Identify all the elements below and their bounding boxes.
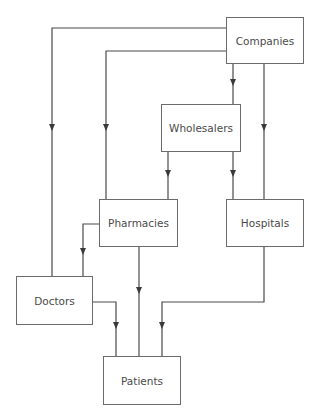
arrow-down-icon	[136, 287, 142, 294]
node-label: Pharmacies	[108, 217, 169, 229]
arrow-down-icon	[261, 124, 267, 131]
edge-pharmacies-doctors	[83, 224, 99, 276]
arrow-down-icon	[230, 79, 236, 86]
node-label: Wholesalers	[169, 122, 233, 134]
arrow-down-icon	[165, 170, 171, 177]
arrow-down-icon	[159, 322, 165, 329]
node-pharmacies: Pharmacies	[99, 199, 178, 247]
node-label: Companies	[236, 35, 295, 47]
node-hospitals: Hospitals	[226, 199, 304, 247]
arrow-down-icon	[230, 170, 236, 177]
node-doctors: Doctors	[16, 276, 93, 325]
arrow-down-icon	[103, 124, 109, 131]
arrow-down-icon	[113, 322, 119, 329]
node-label: Doctors	[34, 295, 75, 307]
arrow-down-icon	[49, 124, 55, 131]
node-companies: Companies	[226, 17, 304, 64]
node-wholesalers: Wholesalers	[161, 104, 241, 152]
flow-diagram: Companies Wholesalers Pharmacies Hospita…	[0, 0, 315, 416]
edge-hospitals-patients	[162, 246, 264, 356]
node-label: Patients	[121, 375, 163, 387]
arrow-down-icon	[80, 248, 86, 255]
node-patients: Patients	[103, 356, 181, 405]
edge-doctors-patients	[92, 302, 116, 356]
node-label: Hospitals	[241, 217, 289, 229]
